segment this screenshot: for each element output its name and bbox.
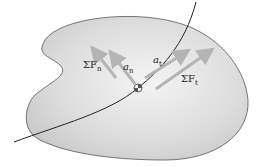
particle xyxy=(134,84,142,92)
diagram-canvas: ΣFn an at ΣFt xyxy=(0,0,257,167)
